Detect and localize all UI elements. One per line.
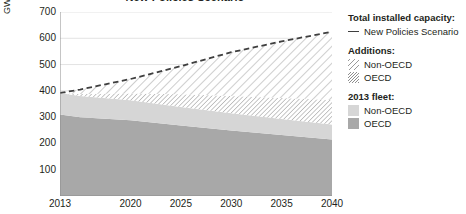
- sparse-hatch-icon: [348, 59, 359, 70]
- x-tick-label: 2030: [220, 198, 242, 209]
- y-tick-label: 600: [22, 33, 56, 43]
- y-axis-tick-labels: 100200300400500600700: [18, 0, 56, 214]
- chart-series-layers: [60, 32, 332, 196]
- legend-item[interactable]: New Policies Scenario: [348, 25, 466, 38]
- legend-item-label: OECD: [364, 118, 391, 129]
- legend-item-label: New Policies Scenario: [364, 26, 459, 37]
- x-tick-label: 2020: [119, 198, 141, 209]
- y-tick-label: 300: [22, 112, 56, 122]
- x-tick-label: 2035: [271, 198, 293, 209]
- chart-legend: Total installed capacity:New Policies Sc…: [348, 12, 466, 137]
- y-tick-label: 200: [22, 138, 56, 148]
- y-tick-label: 100: [22, 165, 56, 175]
- y-tick-label: 400: [22, 86, 56, 96]
- y-tick-label: 700: [22, 7, 56, 17]
- legend-group: 2013 fleet:Non-OECDOECD: [348, 91, 466, 130]
- legend-item[interactable]: OECD: [348, 71, 466, 84]
- x-tick-label: 2040: [321, 198, 343, 209]
- legend-item-label: Non-OECD: [364, 59, 412, 70]
- legend-item[interactable]: Non-OECD: [348, 104, 466, 117]
- legend-group-heading: Additions:: [348, 45, 466, 56]
- y-tick-label: 500: [22, 60, 56, 70]
- area-additions-non-oecd: [60, 32, 332, 100]
- legend-group: Total installed capacity:New Policies Sc…: [348, 12, 466, 38]
- x-axis-tick-labels: 201320202025203020352040: [0, 198, 360, 214]
- legend-item[interactable]: Non-OECD: [348, 58, 466, 71]
- y-axis-label: GW: [2, 0, 12, 14]
- legend-item-label: Non-OECD: [364, 105, 412, 116]
- legend-group-heading: 2013 fleet:: [348, 91, 466, 102]
- x-tick-label: 2013: [49, 198, 71, 209]
- dark-gray-icon: [348, 118, 359, 129]
- dense-hatch-icon: [348, 72, 359, 83]
- legend-item[interactable]: OECD: [348, 117, 466, 130]
- x-tick-label: 2025: [170, 198, 192, 209]
- chart-plot-svg: [60, 12, 332, 196]
- chart-title: New Policies Scenario: [60, 0, 310, 3]
- dashed-line-icon: [348, 26, 359, 37]
- plot-area: [60, 12, 332, 196]
- legend-group: Additions:Non-OECDOECD: [348, 45, 466, 84]
- legend-item-label: OECD: [364, 72, 391, 83]
- chart-container: New Policies Scenario GW 100200300400500…: [0, 0, 466, 214]
- light-gray-icon: [348, 105, 359, 116]
- legend-group-heading: Total installed capacity:: [348, 12, 466, 23]
